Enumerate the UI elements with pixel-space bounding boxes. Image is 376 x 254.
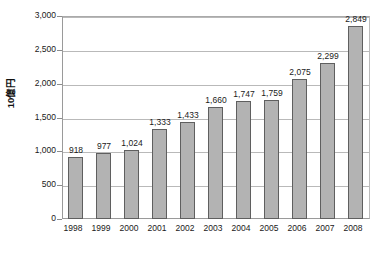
bar[interactable] <box>180 122 195 219</box>
y-axis-tick-label: 500 <box>8 179 56 189</box>
bar-chart-figure: 10億円 05001,0001,5002,0002,5003,000 91897… <box>0 0 376 254</box>
bar-slot: 918 <box>62 16 90 219</box>
bar-slot: 1,759 <box>258 16 286 219</box>
y-axis-tick-label: 1,500 <box>8 112 56 122</box>
bar[interactable] <box>124 150 139 219</box>
bar-slot: 2,075 <box>286 16 314 219</box>
y-axis-tick-label: 3,000 <box>8 10 56 20</box>
y-axis-tick-label: 0 <box>8 213 56 223</box>
bar-slot: 2,849 <box>342 16 370 219</box>
y-axis-tick-mark <box>57 219 62 220</box>
bar-slot: 1,660 <box>202 16 230 219</box>
bar[interactable] <box>208 107 223 219</box>
bar[interactable] <box>236 101 251 219</box>
bar-slot: 1,433 <box>174 16 202 219</box>
y-axis-tick-label: 1,000 <box>8 145 56 155</box>
bar[interactable] <box>68 157 83 219</box>
bar[interactable] <box>348 26 363 219</box>
y-axis-tick-label: 2,500 <box>8 44 56 54</box>
bars-layer: 9189771,0241,3331,4331,6601,7471,7592,07… <box>62 16 370 219</box>
bar-slot: 1,747 <box>230 16 258 219</box>
y-axis-tick-label: 2,000 <box>8 78 56 88</box>
x-axis-tick-label: 2008 <box>336 223 370 233</box>
figure-caption <box>0 243 376 254</box>
bar-value-label: 2,849 <box>337 14 375 24</box>
bar-slot: 977 <box>90 16 118 219</box>
bar[interactable] <box>320 63 335 219</box>
x-axis-tick-labels: 1998199920002001200220032004200520062007… <box>62 223 370 237</box>
bar[interactable] <box>292 79 307 219</box>
bar-slot: 2,299 <box>314 16 342 219</box>
bar[interactable] <box>152 129 167 219</box>
bar[interactable] <box>264 100 279 219</box>
bar[interactable] <box>96 153 111 219</box>
